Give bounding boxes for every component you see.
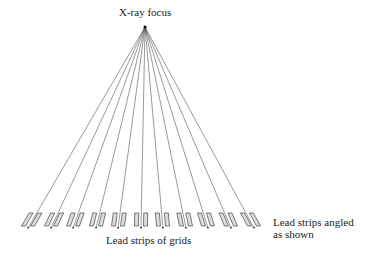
- lead-strip: [135, 213, 139, 226]
- x-ray-beam-line: [145, 27, 208, 228]
- lead-strip: [206, 213, 214, 226]
- angled-label-line-2: as shown: [273, 228, 354, 240]
- lead-strips-angled-label: Lead strips angled as shown: [273, 216, 354, 240]
- lead-strip: [67, 213, 76, 226]
- lead-strip: [144, 213, 148, 226]
- x-ray-focus-label: X-ray focus: [119, 6, 171, 18]
- lead-strip: [186, 213, 193, 226]
- lead-strip: [121, 213, 127, 226]
- angled-label-line-1: Lead strips angled: [273, 216, 354, 228]
- x-ray-beam-line: [96, 27, 145, 228]
- x-ray-beam-line: [141, 27, 145, 228]
- lead-strip: [240, 213, 251, 226]
- x-ray-beams: [28, 27, 254, 228]
- x-ray-beam-line: [145, 27, 163, 228]
- lead-strip: [90, 213, 97, 226]
- x-ray-beam-line: [73, 27, 145, 228]
- x-ray-beam-line: [145, 27, 254, 228]
- lead-strip: [164, 213, 169, 226]
- lead-strip: [99, 213, 106, 226]
- lead-strip: [76, 213, 85, 226]
- lead-strip: [177, 213, 184, 226]
- x-ray-beam-line: [145, 27, 231, 228]
- x-ray-beam-line: [28, 27, 145, 228]
- lead-strip: [249, 213, 260, 226]
- x-ray-beam-line: [51, 27, 145, 228]
- lead-strip: [112, 213, 118, 226]
- x-ray-focus-point: [144, 26, 147, 29]
- lead-strip: [155, 213, 160, 226]
- lead-strips-grid-label: Lead strips of grids: [106, 234, 191, 246]
- lead-strip: [197, 213, 205, 226]
- x-ray-beam-line: [145, 27, 186, 228]
- x-ray-beam-line: [118, 27, 145, 228]
